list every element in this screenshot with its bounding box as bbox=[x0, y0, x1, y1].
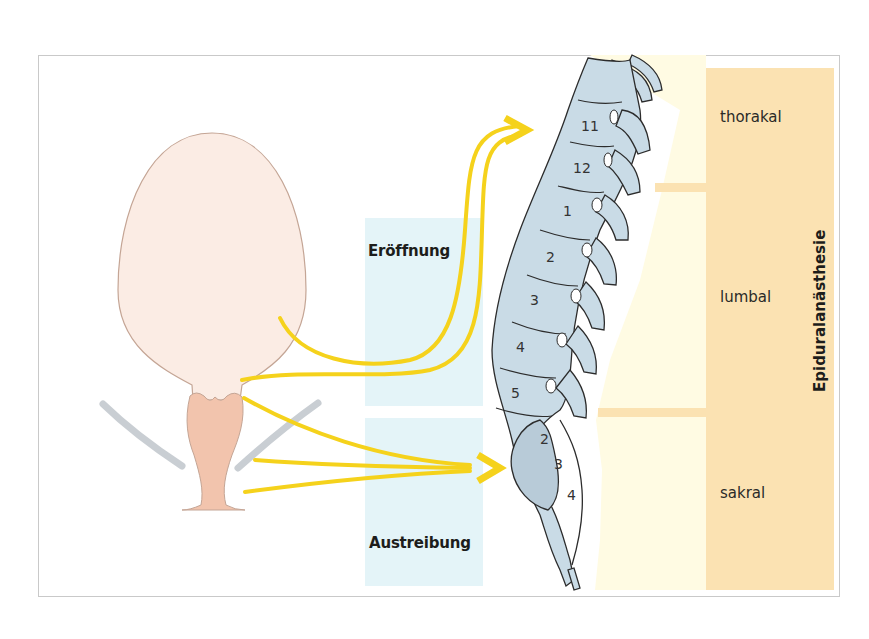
region-label-sakral: sakral bbox=[720, 484, 765, 502]
vertebra-l4: 4 bbox=[516, 339, 525, 355]
vertebra-l1: 1 bbox=[563, 203, 572, 219]
vertebra-s4: 4 bbox=[567, 487, 576, 503]
phase-label-austreibung: Austreibung bbox=[369, 534, 471, 552]
region-label-thorakal: thorakal bbox=[720, 108, 782, 126]
vertebra-t11: 11 bbox=[581, 118, 599, 134]
epidural-title: Epiduralanästhesie bbox=[811, 230, 829, 392]
vertebra-s3: 3 bbox=[554, 456, 563, 472]
phase-label-eroeffnung: Eröffnung bbox=[368, 242, 450, 260]
vertebra-l3: 3 bbox=[530, 292, 539, 308]
vertebra-l2: 2 bbox=[546, 249, 555, 265]
vertebra-s2: 2 bbox=[540, 431, 549, 447]
region-label-lumbal: lumbal bbox=[720, 288, 771, 306]
vertebra-t12: 12 bbox=[573, 160, 591, 176]
vertebra-l5: 5 bbox=[511, 385, 520, 401]
